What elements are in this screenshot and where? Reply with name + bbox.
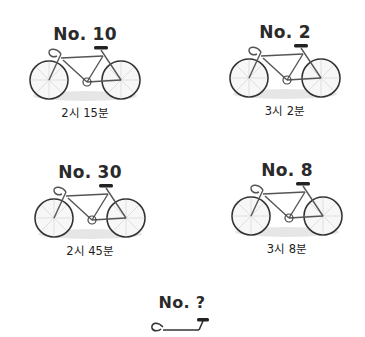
bicycle-icon [229, 182, 345, 240]
question-number: No. ? [117, 293, 247, 313]
bicycle-icon [227, 44, 343, 102]
puzzle-item-1: No. 10 2시 15분 [20, 24, 150, 120]
bicycle-icon [27, 46, 143, 104]
item-number: No. 30 [25, 162, 155, 182]
item-number: No. 8 [222, 160, 352, 180]
bicycle-icon [32, 184, 148, 242]
puzzle-question: No. ? [117, 293, 247, 335]
item-time: 3시 8분 [222, 242, 352, 256]
item-time: 3시 2분 [220, 104, 350, 118]
puzzle-item-3: No. 30 2시 45분 [25, 162, 155, 258]
puzzle-item-4: No. 8 3시 8분 [222, 160, 352, 256]
item-time: 2시 15분 [20, 106, 150, 120]
puzzle-item-2: No. 2 3시 2분 [220, 22, 350, 118]
item-number: No. 2 [220, 22, 350, 42]
item-number: No. 10 [20, 24, 150, 44]
item-time: 2시 45분 [25, 244, 155, 258]
handlebar-icon [147, 315, 217, 335]
